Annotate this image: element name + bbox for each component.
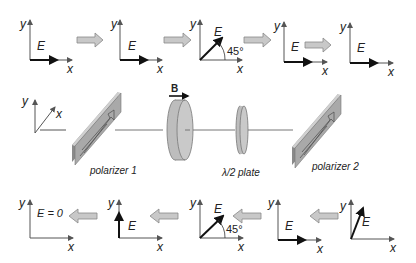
e-zero-label: E = 0	[37, 207, 64, 219]
y-axis-label: y	[107, 196, 115, 210]
bottom-state-4: y x E	[267, 196, 324, 256]
bottom-state-2: y x E	[107, 196, 164, 254]
y-axis-label: y	[189, 17, 197, 31]
svg-text:y: y	[21, 94, 29, 108]
polarizer-1-label: polarizer 1	[89, 165, 137, 176]
y-axis-label: y	[339, 20, 347, 34]
x-axis-label: x	[237, 240, 245, 254]
e-field-label: E	[291, 40, 300, 54]
x-axis-label: x	[387, 65, 395, 79]
e-field-label: E	[214, 202, 223, 216]
left-arrow-icon	[69, 209, 97, 223]
b-field-label: B	[171, 83, 178, 94]
top-state-2: y x E	[110, 17, 164, 76]
coordinate-frame: y x	[21, 94, 66, 133]
y-axis-label: y	[18, 196, 26, 210]
y-axis-label: y	[19, 17, 27, 31]
right-arrow-icon	[244, 33, 271, 47]
e-field-label: E	[128, 39, 137, 53]
left-arrow-icon	[310, 209, 338, 223]
x-axis-label: x	[321, 64, 329, 78]
left-arrow-icon	[150, 209, 178, 223]
angle-label: 45°	[227, 45, 244, 57]
top-state-1: y x E	[19, 17, 74, 76]
x-axis-label: x	[66, 62, 74, 76]
e-field-label: E	[128, 219, 137, 233]
top-state-3: y x E 45°	[189, 17, 244, 76]
e-field-label: E	[357, 41, 366, 55]
e-field-label: E	[37, 39, 46, 53]
left-arrow-icon	[233, 209, 261, 223]
e-field-label: E	[214, 25, 223, 39]
bottom-state-5: y x E	[339, 199, 397, 255]
top-state-5: y x E	[339, 20, 395, 79]
x-axis-label: x	[156, 62, 164, 76]
x-axis-label: x	[389, 241, 397, 255]
x-axis-label: x	[316, 242, 324, 256]
bottom-state-1: y x E = 0	[18, 196, 75, 254]
x-axis-label: x	[67, 240, 75, 254]
polarizer-2: polarizer 2	[292, 94, 359, 172]
magnetic-field-indicator: B	[169, 83, 188, 96]
x-axis-label: x	[236, 62, 244, 76]
faraday-isolator-diagram: y x E y x E y x E 45° y x E	[0, 0, 416, 263]
y-axis-label: y	[273, 19, 281, 33]
polarizer-1: polarizer 1	[72, 92, 137, 176]
angle-label: 45°	[226, 223, 243, 235]
svg-text:x: x	[55, 107, 63, 121]
right-arrow-icon	[164, 33, 191, 47]
right-arrow-icon	[305, 38, 331, 52]
bottom-state-3: y x E 45°	[189, 196, 245, 254]
half-wave-plate-label: λ/2 plate	[221, 167, 260, 178]
e-field-label: E	[362, 215, 371, 229]
y-axis-label: y	[110, 17, 118, 31]
x-axis-label: x	[156, 240, 164, 254]
y-axis-label: y	[189, 196, 197, 210]
y-axis-label: y	[339, 199, 347, 213]
half-wave-plate: λ/2 plate	[221, 106, 260, 178]
y-axis-label: y	[267, 196, 275, 210]
faraday-rotator	[167, 100, 193, 160]
right-arrow-icon	[77, 33, 103, 47]
top-state-4: y x E	[273, 19, 329, 78]
polarizer-2-label: polarizer 2	[311, 161, 359, 172]
e-field-label: E	[285, 219, 294, 233]
